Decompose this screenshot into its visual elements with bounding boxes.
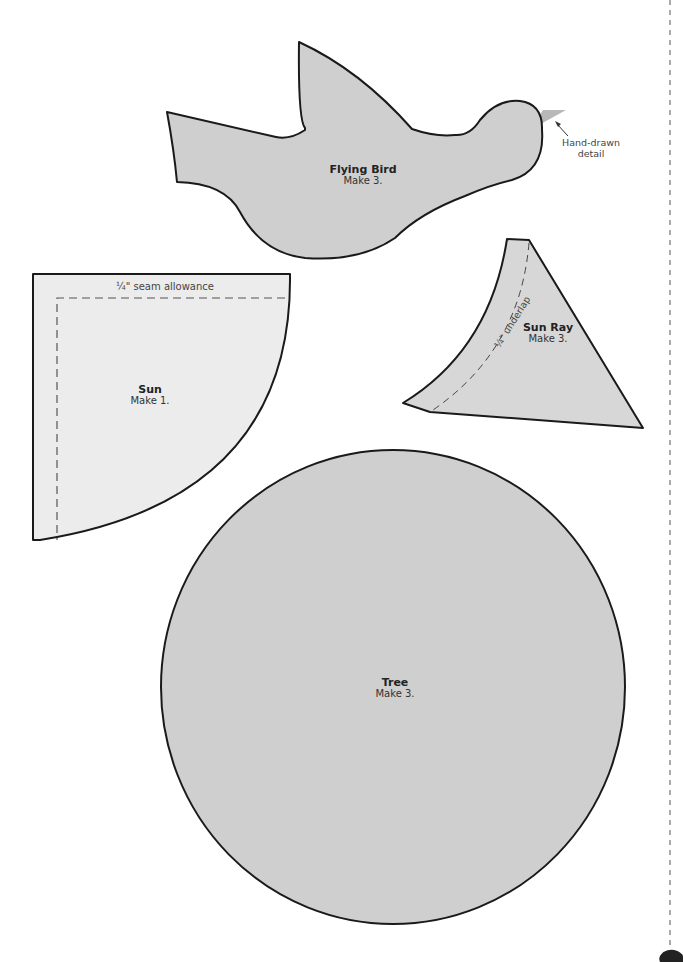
sun-instruction: Make 1.: [115, 396, 185, 407]
flying-bird-label: Flying Bird Make 3.: [318, 164, 408, 186]
sun-ray-label: Sun Ray Make 3.: [508, 322, 588, 344]
page-tab-marker: [659, 950, 683, 962]
flying-bird-instruction: Make 3.: [318, 176, 408, 187]
sun-label: Sun Make 1.: [115, 384, 185, 406]
seam-allowance-note: ¼" seam allowance: [95, 281, 235, 293]
sun-ray-title: Sun Ray: [508, 322, 588, 334]
sun-ray-instruction: Make 3.: [508, 334, 588, 345]
flying-bird-title: Flying Bird: [318, 164, 408, 176]
tree-title: Tree: [355, 677, 435, 689]
hand-drawn-note-line2: detail: [546, 149, 636, 160]
sun-title: Sun: [115, 384, 185, 396]
tree-label: Tree Make 3.: [355, 677, 435, 699]
hand-drawn-note: Hand-drawn detail: [546, 138, 636, 160]
tree-instruction: Make 3.: [355, 689, 435, 700]
bird-outline: [167, 42, 542, 259]
arrow-head-icon: [555, 121, 561, 127]
flying-bird-template: [167, 42, 568, 259]
